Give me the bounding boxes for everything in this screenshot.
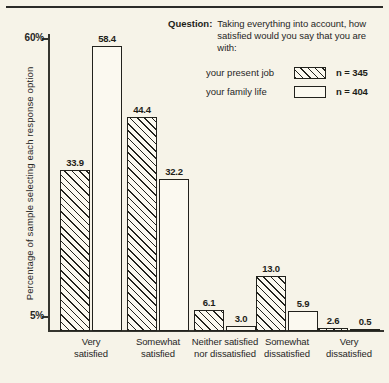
- bar-value-label: 3.0: [221, 313, 261, 324]
- legend-rows: your present jobn = 345your family lifen…: [206, 63, 384, 101]
- bar: [226, 326, 256, 331]
- bar-value-label: 0.5: [345, 316, 385, 327]
- legend-row: your present jobn = 345: [206, 63, 384, 82]
- question-row: Question: Taking everything into account…: [168, 18, 384, 54]
- bar: [92, 46, 122, 331]
- legend-sample-size: n = 404: [336, 86, 368, 97]
- question-text: Taking everything into account, how sati…: [217, 18, 384, 54]
- bar: [127, 117, 157, 331]
- bar: [318, 328, 348, 331]
- question-word: Question:: [168, 18, 217, 29]
- bar: [60, 170, 90, 331]
- bar-value-label: 44.4: [122, 104, 162, 115]
- bar: [256, 276, 286, 331]
- legend-swatch-open: [294, 86, 326, 98]
- legend: Question: Taking everything into account…: [168, 18, 384, 101]
- bar: [159, 179, 189, 331]
- legend-sample-size: n = 345: [336, 67, 368, 78]
- bar-value-label: 58.4: [87, 33, 127, 44]
- legend-swatch-hatched: [294, 67, 326, 79]
- bar-value-label: 13.0: [251, 263, 291, 274]
- bar: [350, 329, 380, 331]
- category-label-line: Very: [294, 336, 389, 348]
- bar-value-label: 5.9: [283, 298, 323, 309]
- bar: [194, 310, 224, 331]
- category-label-line: dissatisfied: [294, 348, 389, 360]
- legend-series-label: your family life: [206, 86, 294, 97]
- x-axis-category-label: Verydissatisfied: [294, 336, 389, 359]
- bar-value-label: 6.1: [189, 297, 229, 308]
- bar-value-label: 32.2: [154, 166, 194, 177]
- bar-value-label: 33.9: [55, 157, 95, 168]
- legend-series-label: your present job: [206, 67, 294, 78]
- legend-row: your family lifen = 404: [206, 82, 384, 101]
